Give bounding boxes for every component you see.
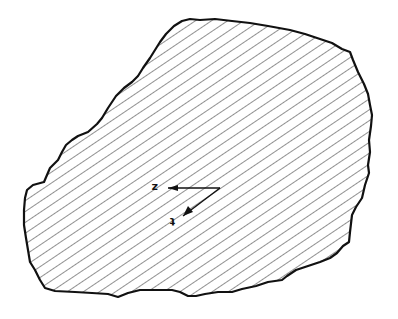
t-axis-label: t [170, 215, 175, 228]
z-axis-label: z [152, 181, 158, 194]
hatched-region-diagram: z t [0, 0, 398, 319]
